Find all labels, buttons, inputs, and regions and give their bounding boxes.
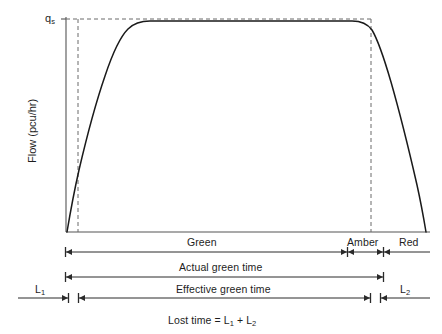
phase-span-row xyxy=(66,247,431,257)
l2-span-start-arrow xyxy=(381,295,387,301)
effective-green-end-arrow xyxy=(364,295,370,301)
flow-profile-figure: Flow (pcu/hr) qs Green Amber Red Actual … xyxy=(0,0,442,334)
phase-label-amber: Amber xyxy=(347,236,378,248)
red-span-start-arrow xyxy=(384,249,390,255)
span-label-effective-green-time: Effective green time xyxy=(176,283,271,295)
green-span-end-arrow xyxy=(341,249,347,255)
lost-time-equation-operator: + L xyxy=(234,314,252,326)
loss-label-l2: L2 xyxy=(400,283,410,297)
lost-time-equation-prefix: Lost time = L xyxy=(168,314,230,326)
actual-green-time-end-arrow xyxy=(377,274,383,280)
actual-green-time-span-row xyxy=(66,272,384,282)
amber-span-start-arrow xyxy=(348,249,354,255)
loss-label-l2-subscript: 2 xyxy=(406,288,410,297)
saturation-flow-subscript: s xyxy=(51,17,55,26)
phase-label-red: Red xyxy=(399,236,419,248)
amber-span-end-arrow xyxy=(377,249,383,255)
lost-time-equation-sub2: 2 xyxy=(252,319,256,328)
y-axis-title: Flow (pcu/hr) xyxy=(26,99,38,163)
loss-label-l1-subscript: 1 xyxy=(41,288,45,297)
phase-label-green: Green xyxy=(187,236,217,248)
lost-time-equation: Lost time = L1 + L2 xyxy=(168,314,256,328)
span-label-actual-green-time: Actual green time xyxy=(179,261,262,273)
loss-label-l1: L1 xyxy=(35,283,45,297)
l1-span-end-arrow xyxy=(62,295,68,301)
actual-green-time-start-arrow xyxy=(66,274,72,280)
discharge-flow-curve xyxy=(67,21,426,232)
effective-green-start-arrow xyxy=(79,295,85,301)
saturation-flow-label: qs xyxy=(45,12,55,26)
green-span-start-arrow xyxy=(66,249,72,255)
